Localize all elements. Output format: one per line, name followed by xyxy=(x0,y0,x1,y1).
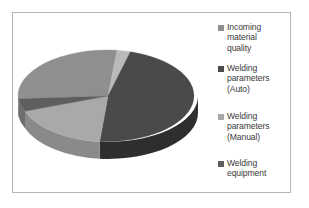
square-swatch-icon xyxy=(218,161,224,167)
legend-item-welding-parameters-auto[interactable]: Welding parameters (Auto) xyxy=(218,63,269,94)
legend-item-label: Welding equipment xyxy=(227,158,266,179)
pie-slice-top-incoming-material-quality xyxy=(18,50,117,99)
pie-chart-plot-area xyxy=(14,36,212,172)
chart-legend: Incoming material quality Welding parame… xyxy=(218,22,290,192)
legend-item-welding-equipment[interactable]: Welding equipment xyxy=(218,158,266,179)
legend-item-label: Welding parameters (Auto) xyxy=(227,63,269,94)
square-swatch-icon xyxy=(218,114,224,120)
square-swatch-icon xyxy=(218,25,224,31)
legend-item-label: Incoming material quality xyxy=(227,22,261,53)
pie-chart-svg xyxy=(14,36,212,172)
legend-item-incoming-material-quality[interactable]: Incoming material quality xyxy=(218,22,261,53)
chart-figure: Incoming material quality Welding parame… xyxy=(0,0,309,208)
square-swatch-icon xyxy=(218,66,224,72)
legend-item-welding-parameters-manual[interactable]: Welding parameters (Manual) xyxy=(218,111,269,142)
legend-item-label: Welding parameters (Manual) xyxy=(227,111,269,142)
